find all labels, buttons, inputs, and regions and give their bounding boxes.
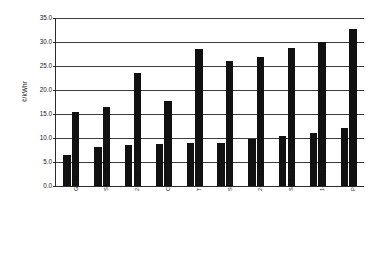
- x-axis-label: Central Rec: [165, 161, 171, 191]
- x-axis-label: 2-Axis Static: [134, 159, 140, 191]
- x-axis-label: Static Conc: [227, 162, 233, 191]
- bar: [63, 155, 71, 186]
- y-axis-tick-label: 15.0: [24, 111, 52, 117]
- y-axis-tick: [53, 42, 57, 43]
- bar: [125, 145, 133, 186]
- bar: [248, 139, 256, 186]
- bar: [310, 133, 318, 186]
- y-axis-tick: [53, 186, 57, 187]
- y-axis-tick-label: 35.0: [24, 15, 52, 21]
- x-axis-label: GaAs Dish: [73, 164, 79, 191]
- y-axis-tick-label: 5.0: [24, 159, 52, 165]
- y-axis-tick-labels: 35.030.025.020.015.010.05.00.0: [22, 0, 52, 255]
- bar: [341, 128, 349, 186]
- y-axis-tick: [53, 90, 57, 91]
- y-axis-tick-label: 10.0: [24, 135, 52, 141]
- x-axis-label: 2-Axis FP: [257, 166, 263, 191]
- bar: [156, 144, 164, 186]
- x-axis-category-labels: GaAs DishSi Dish2-Axis StaticCentral Rec…: [55, 188, 363, 255]
- y-axis-tick: [53, 138, 57, 139]
- bar: [217, 143, 225, 186]
- bar: [187, 143, 195, 186]
- x-axis-label: PP: [350, 183, 356, 191]
- y-axis-tick: [53, 18, 57, 19]
- bar: [94, 147, 102, 186]
- bar: [318, 42, 326, 186]
- bar: [279, 136, 287, 186]
- bar-chart: ¢/kWhr 35.030.025.020.015.010.05.00.0 Ga…: [0, 0, 386, 255]
- y-axis-tick: [53, 66, 57, 67]
- y-axis-tick-label: 0.0: [24, 183, 52, 189]
- x-axis-label: 1-Axis FP: [319, 166, 325, 191]
- y-axis-tick: [53, 114, 57, 115]
- y-axis-tick-label: 25.0: [24, 63, 52, 69]
- x-axis-label: Thin Film: [196, 168, 202, 191]
- plot-area: [55, 18, 364, 187]
- y-axis-tick: [53, 162, 57, 163]
- plot-top-rule: [56, 18, 364, 19]
- y-axis-tick-label: 30.0: [24, 39, 52, 45]
- x-axis-label: Si Dish: [103, 173, 109, 191]
- y-axis-tick-label: 20.0: [24, 87, 52, 93]
- x-axis-label: Si 1-Axis Trough: [288, 149, 294, 191]
- bar: [349, 29, 357, 186]
- bar: [195, 49, 203, 186]
